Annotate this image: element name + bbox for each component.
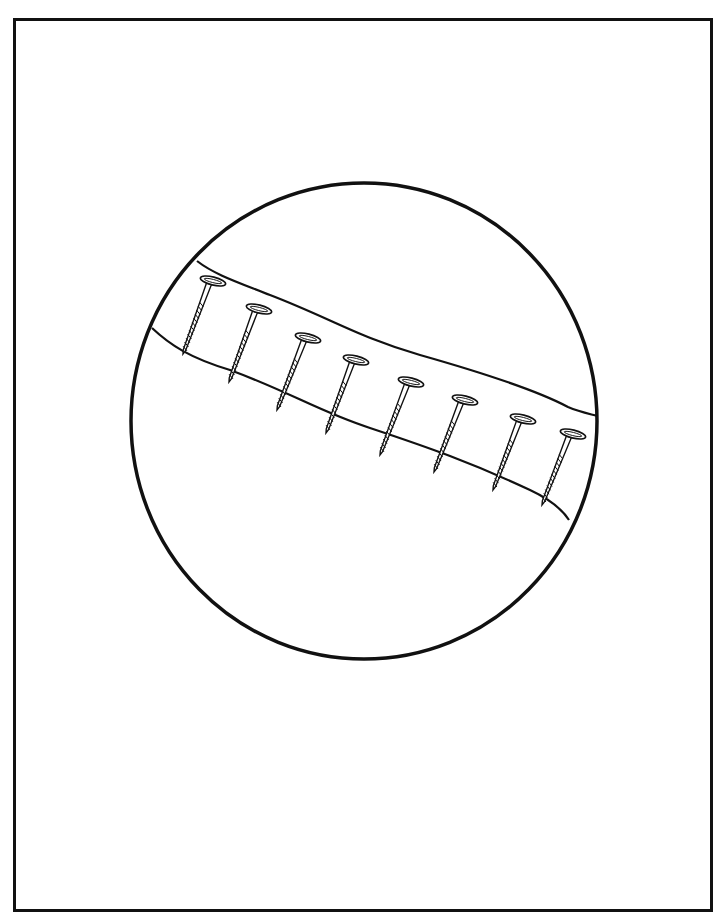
nail-icon <box>542 427 587 505</box>
band-top-edge <box>197 261 597 416</box>
nail-icon <box>183 274 227 354</box>
nail-icon <box>229 302 273 382</box>
nail-icon <box>493 412 537 490</box>
page-border-frame <box>15 20 712 911</box>
nail-icon <box>380 375 425 455</box>
nail-icon <box>434 393 479 472</box>
coloring-page <box>0 0 722 917</box>
